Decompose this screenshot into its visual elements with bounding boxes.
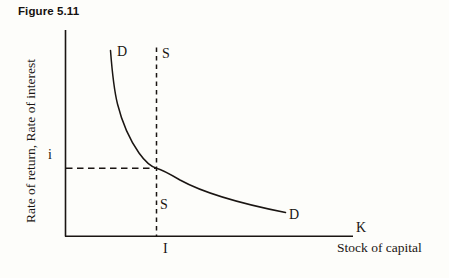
x-axis-title: Stock of capital bbox=[337, 240, 422, 256]
x-tick-label-i: I bbox=[163, 242, 168, 256]
y-tick-label-i: i bbox=[48, 148, 52, 162]
demand-curve-label-top: D bbox=[117, 45, 127, 59]
demand-curve-label-bottom: D bbox=[289, 208, 299, 222]
figure-container: Figure 5.11 Rate of return, Rate of inte… bbox=[0, 0, 449, 278]
x-axis-variable-label: K bbox=[356, 221, 366, 235]
demand-curve bbox=[111, 51, 286, 213]
supply-line-label-bottom: S bbox=[160, 198, 168, 212]
supply-line-label-top: S bbox=[162, 47, 170, 61]
y-axis-title: Rate of return, Rate of interest bbox=[23, 41, 39, 241]
supply-demand-chart bbox=[0, 0, 449, 278]
